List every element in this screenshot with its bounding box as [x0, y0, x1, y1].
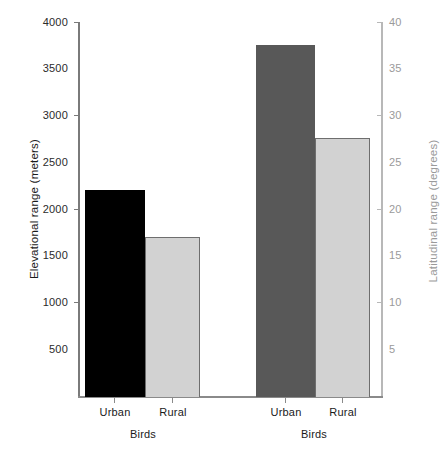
left-tick-1000: [74, 302, 79, 303]
x-label-birds-rural-2: Rural: [298, 406, 388, 418]
left-tick-label-500: 500: [22, 344, 68, 355]
right-tick-label-25: 25: [389, 157, 429, 168]
left-tick-2000: [74, 209, 79, 210]
bar-birds-urban-latitudinal: [256, 45, 315, 397]
right-tick-label-40: 40: [389, 17, 429, 28]
x-label-birds-rural-1: Rural: [128, 406, 218, 418]
right-tick-20: [377, 209, 382, 210]
bar-chart: 4000 3500 3000 2500 2000 1500 1000 500 4…: [0, 0, 447, 461]
x-tick-birds-rural-2: [342, 397, 343, 403]
right-axis-title: Latitudinal range (degrees): [427, 111, 439, 311]
left-tick-label-3500: 3500: [22, 63, 68, 74]
right-tick-label-35: 35: [389, 63, 429, 74]
right-tick-label-10: 10: [389, 297, 429, 308]
right-tick-30: [377, 115, 382, 116]
group-label-birds-1: Birds: [73, 428, 213, 440]
bar-birds-rural-elevational: [145, 237, 200, 397]
x-tick-birds-urban-2: [285, 397, 286, 403]
bar-birds-rural-latitudinal: [315, 138, 370, 397]
x-tick-birds-urban-1: [114, 397, 115, 403]
right-tick-10: [377, 302, 382, 303]
right-tick-40: [377, 22, 382, 23]
right-tick-label-15: 15: [389, 250, 429, 261]
right-tick-label-5: 5: [389, 344, 429, 355]
left-tick-4000: [74, 22, 79, 23]
left-tick-label-4000: 4000: [22, 17, 68, 28]
group-label-birds-2: Birds: [244, 428, 384, 440]
left-axis-title: Elevational range (meters): [28, 109, 40, 309]
x-tick-birds-rural-1: [172, 397, 173, 403]
right-tick-label-20: 20: [389, 204, 429, 215]
bar-birds-urban-elevational: [85, 190, 145, 397]
left-tick-3000: [74, 115, 79, 116]
right-tick-label-30: 30: [389, 110, 429, 121]
